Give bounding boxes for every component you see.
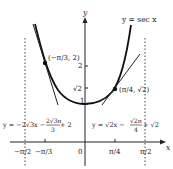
point-right-label: (π/4, √2) — [119, 86, 150, 94]
x-tick-neg-half-pi: −π/2 — [14, 148, 31, 156]
svg-text:+ √2: + √2 — [143, 121, 159, 129]
svg-text:3: 3 — [51, 126, 55, 133]
sec-curve — [35, 24, 131, 104]
x-axis-label: x — [166, 143, 171, 152]
point-left — [43, 61, 47, 65]
x-tick-zero: 0 — [78, 148, 82, 156]
tangent-left-equation: y = −2√3x − 2√3π 3 + 2 — [2, 117, 72, 133]
tangent-right — [102, 54, 140, 105]
point-right — [113, 87, 117, 91]
y-tick-1: 1 — [80, 97, 84, 105]
svg-text:4: 4 — [134, 126, 138, 133]
y-axis-label: y — [82, 8, 88, 17]
tangent-right-equation: y = √2x − √2π 4 + √2 — [91, 117, 159, 133]
svg-text:y = −2√3x −: y = −2√3x − — [2, 121, 45, 129]
svg-text:√2π: √2π — [130, 117, 142, 124]
curve-label: y = sec x — [121, 15, 157, 24]
y-axis-arrow-icon — [83, 17, 88, 23]
secant-diagram: y = sec x x y (−π/3, 2) (π/4, √2) 2 √2 1… — [0, 0, 173, 169]
y-tick-sqrt2: √2 — [73, 85, 82, 93]
x-tick-neg-third-pi: −π/3 — [35, 148, 52, 156]
svg-text:+ 2: + 2 — [60, 121, 72, 129]
y-tick-2: 2 — [78, 62, 82, 70]
x-tick-half-pi: π/2 — [140, 148, 151, 156]
point-left-label: (−π/3, 2) — [48, 54, 80, 62]
x-tick-quarter-pi: π/4 — [109, 148, 121, 156]
svg-text:y = √2x −: y = √2x − — [91, 121, 125, 129]
